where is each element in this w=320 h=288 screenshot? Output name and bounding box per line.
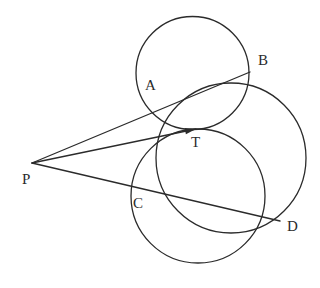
ray-p-a-b xyxy=(32,72,250,163)
large-right-circle xyxy=(156,83,306,233)
point-label-p: P xyxy=(22,172,30,187)
ray-p-t xyxy=(32,129,196,163)
point-label-c: C xyxy=(133,196,143,211)
point-label-b: B xyxy=(258,53,268,68)
ray-p-c-d xyxy=(32,163,280,221)
geometry-figure: P A B C D T xyxy=(0,0,320,288)
point-label-t: T xyxy=(191,135,200,150)
circles-group xyxy=(131,17,306,264)
geometry-canvas xyxy=(0,0,320,288)
point-label-d: D xyxy=(287,219,298,234)
point-label-a: A xyxy=(145,78,156,93)
